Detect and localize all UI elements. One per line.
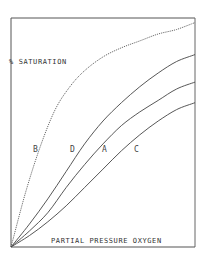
curves [11,23,195,247]
curve-c [11,103,195,247]
oxygen-saturation-chart [0,0,204,264]
y-axis-label: % SATURATION [9,58,67,66]
curve-a [11,82,195,247]
curve-label-b: B [33,145,38,154]
plot-frame [11,18,195,247]
curve-label-a: A [102,145,107,154]
curve-label-c: C [134,145,139,154]
curve-b [11,23,195,247]
x-axis-label: PARTIAL PRESSURE OXYGEN [51,237,162,245]
curve-label-d: D [70,145,75,154]
